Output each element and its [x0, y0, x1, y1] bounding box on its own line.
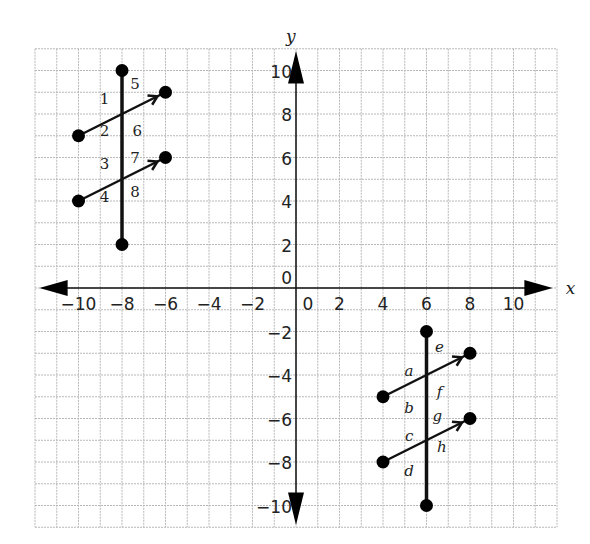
- endpoint-dot: [116, 64, 129, 77]
- x-tick-label: 2: [334, 294, 345, 314]
- y-tick-label: −10: [256, 497, 292, 517]
- angle-label: d: [404, 462, 414, 480]
- angle-label: b: [404, 399, 414, 417]
- endpoint-dot: [377, 456, 390, 469]
- endpoint-dot: [72, 195, 85, 208]
- y-tick-label: 6: [281, 149, 292, 169]
- endpoint-dot: [420, 499, 433, 512]
- y-tick-label: −8: [267, 453, 292, 473]
- angle-label: g: [433, 407, 443, 425]
- endpoint-dot: [159, 151, 172, 164]
- x-tick-label: −4: [196, 294, 221, 314]
- angle-label: 8: [130, 183, 140, 201]
- x-axis-label: x: [566, 278, 576, 298]
- coordinate-plane: xy−10−8−6−4−202468101086420−2−4−6−8−1015…: [0, 0, 590, 544]
- y-tick-label: 0: [281, 268, 292, 288]
- x-tick-label: 6: [421, 294, 432, 314]
- x-axis-right-arrow-icon: [524, 280, 552, 296]
- endpoint-dot: [464, 412, 477, 425]
- y-tick-label: 2: [281, 236, 292, 256]
- x-tick-label: 8: [465, 294, 476, 314]
- endpoint-dot: [159, 86, 172, 99]
- y-tick-label: −2: [267, 323, 292, 343]
- angle-label: h: [437, 438, 447, 456]
- x-tick-label: −2: [240, 294, 265, 314]
- angle-label: 4: [100, 188, 110, 206]
- y-tick-label: −4: [267, 366, 292, 386]
- angle-label: 2: [100, 122, 110, 140]
- angle-label: 1: [100, 90, 110, 108]
- y-axis-label: y: [285, 26, 296, 46]
- coordinate-plane-diagram: xy−10−8−6−4−202468101086420−2−4−6−8−1015…: [0, 0, 590, 544]
- x-tick-label: 4: [378, 294, 389, 314]
- angle-label: 5: [130, 75, 140, 93]
- x-tick-label: −8: [109, 294, 134, 314]
- x-tick-label: 0: [303, 294, 314, 314]
- endpoint-dot: [116, 238, 129, 251]
- angle-label: 6: [132, 122, 142, 140]
- angle-label: 7: [130, 149, 140, 167]
- angle-label: e: [435, 338, 444, 356]
- x-tick-label: 10: [503, 294, 525, 314]
- endpoint-dot: [420, 325, 433, 338]
- angle-label: 3: [100, 155, 110, 173]
- y-tick-label: 8: [281, 105, 292, 125]
- angle-label: c: [405, 427, 414, 445]
- x-tick-label: −6: [153, 294, 178, 314]
- y-tick-label: −6: [267, 410, 292, 430]
- x-tick-label: −10: [61, 294, 97, 314]
- endpoint-dot: [464, 347, 477, 360]
- angle-label: a: [405, 362, 414, 380]
- endpoint-dot: [377, 390, 390, 403]
- y-tick-label: 10: [270, 62, 292, 82]
- angle-label: f: [436, 383, 445, 401]
- endpoint-dot: [72, 129, 85, 142]
- y-tick-label: 4: [281, 192, 292, 212]
